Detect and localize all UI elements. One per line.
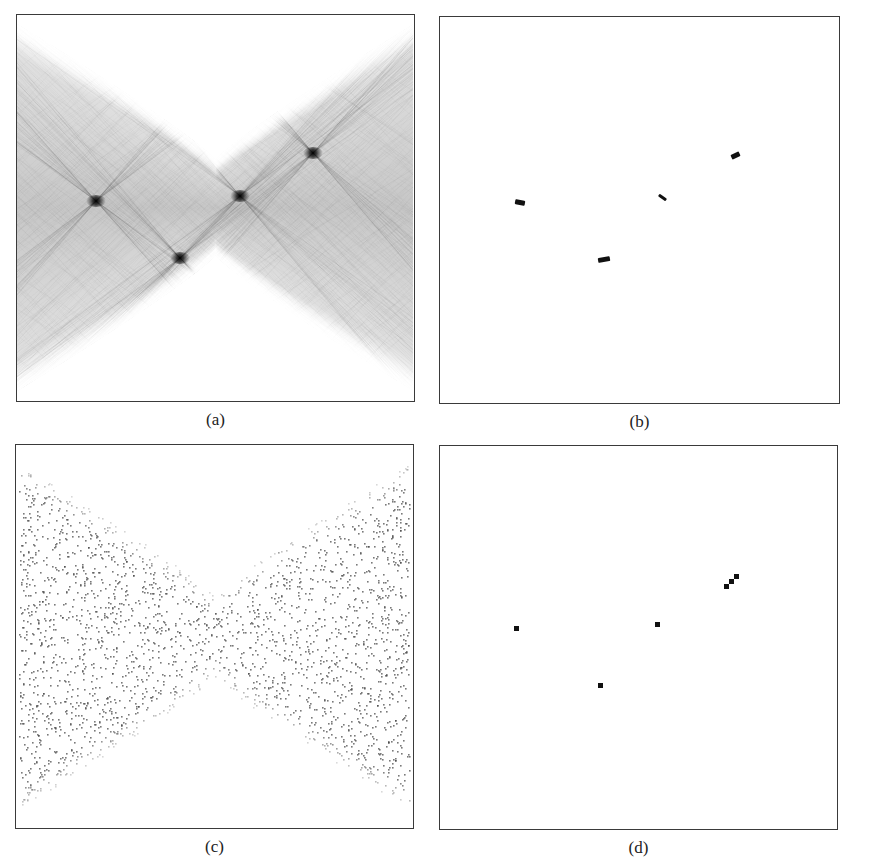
- detected-peak-marker: [734, 574, 739, 579]
- scatter-image: [16, 445, 412, 827]
- panel-c-point-scatter: [15, 444, 414, 829]
- caption-d: (d): [589, 838, 689, 858]
- detected-peak-marker: [598, 683, 603, 688]
- peak-blob: [515, 199, 526, 206]
- panel-b-thresholded: [439, 16, 840, 404]
- caption-b: (b): [590, 412, 690, 432]
- detected-peak-marker: [514, 626, 519, 631]
- detected-peak-marker: [655, 622, 660, 627]
- accumulator-image: [17, 15, 413, 400]
- peak-blob: [598, 256, 611, 263]
- caption-a: (a): [166, 410, 266, 430]
- panel-a-accumulator: [16, 14, 415, 402]
- panel-d-detected-peaks: [439, 445, 838, 830]
- detected-peak-marker: [729, 579, 734, 584]
- caption-c: (c): [165, 837, 265, 857]
- peak-blob: [658, 194, 667, 202]
- detected-peak-marker: [724, 584, 729, 589]
- peak-blob: [730, 151, 740, 159]
